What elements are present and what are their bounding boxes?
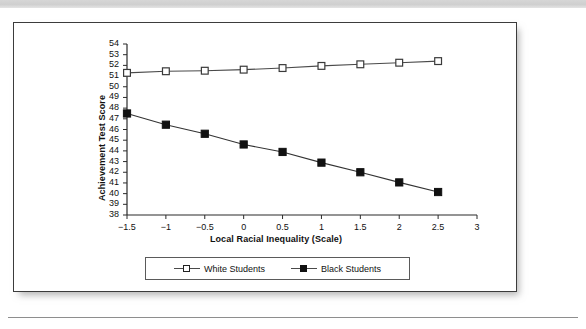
x-axis-tick-label: 2 (379, 222, 419, 232)
y-axis-tick-label: 54 (93, 38, 119, 48)
y-axis-tick-label: 47 (93, 113, 119, 123)
chart-legend: White Students Black Students (145, 257, 410, 280)
data-point-black-students (201, 130, 208, 137)
data-point-white-students (396, 59, 403, 66)
chart-svg (14, 23, 516, 291)
chart-plot-area: Achievement Test Score Local Racial Ineq… (14, 23, 516, 291)
data-point-black-students (123, 110, 130, 117)
data-point-white-students (201, 67, 208, 74)
data-point-white-students (162, 68, 169, 75)
legend-label-black-students: Black Students (321, 264, 381, 274)
y-axis-tick-label: 43 (93, 156, 119, 166)
data-point-white-students (124, 69, 131, 76)
page-bottom-rule (8, 317, 578, 318)
y-axis-tick-label: 51 (93, 70, 119, 80)
data-point-white-students (279, 65, 286, 72)
data-point-white-students (240, 66, 247, 73)
data-point-black-students (435, 188, 442, 195)
y-axis-tick-label: 50 (93, 81, 119, 91)
data-point-black-students (318, 159, 325, 166)
y-axis-tick-label: 44 (93, 145, 119, 155)
open-square-marker-icon (174, 264, 200, 274)
data-point-black-students (357, 169, 364, 176)
y-axis-tick-label: 39 (93, 198, 119, 208)
data-point-white-students (357, 61, 364, 68)
x-axis-tick-label: −1.5 (107, 222, 147, 232)
legend-item-black-students: Black Students (291, 264, 381, 274)
x-axis-tick-label: 0 (224, 222, 264, 232)
y-axis-tick-label: 49 (93, 91, 119, 101)
data-point-black-students (396, 179, 403, 186)
y-axis-tick-label: 45 (93, 134, 119, 144)
data-point-white-students (435, 58, 442, 65)
data-point-black-students (240, 141, 247, 148)
x-axis-tick-label: 0.5 (263, 222, 303, 232)
y-axis-tick-label: 40 (93, 188, 119, 198)
x-axis-tick-label: 1 (301, 222, 341, 232)
page-top-band (0, 0, 586, 8)
filled-square-marker-icon (291, 264, 317, 274)
data-point-black-students (162, 121, 169, 128)
y-axis-tick-label: 53 (93, 49, 119, 59)
x-axis-tick-label: 1.5 (340, 222, 380, 232)
data-point-black-students (279, 148, 286, 155)
x-axis-tick-label: −0.5 (185, 222, 225, 232)
data-point-white-students (318, 63, 325, 70)
y-axis-tick-label: 48 (93, 102, 119, 112)
legend-label-white-students: White Students (204, 264, 265, 274)
y-axis-tick-label: 46 (93, 124, 119, 134)
y-axis-tick-label: 41 (93, 177, 119, 187)
figure-container: Achievement Test Score Local Racial Ineq… (13, 22, 517, 292)
y-axis-tick-label: 42 (93, 166, 119, 176)
y-axis-tick-label: 52 (93, 59, 119, 69)
y-axis-tick-label: 38 (93, 209, 119, 219)
x-axis-tick-label: −1 (146, 222, 186, 232)
x-axis-tick-label: 3 (457, 222, 497, 232)
x-axis-tick-label: 2.5 (418, 222, 458, 232)
legend-item-white-students: White Students (174, 264, 265, 274)
